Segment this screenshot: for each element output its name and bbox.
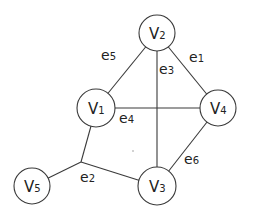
edge-label-e6: e6	[184, 151, 199, 167]
edge-label-e3: e3	[159, 61, 174, 77]
node-v2: V2	[139, 15, 175, 51]
hypergraph-diagram: e5 e1 e3 e4 e6 e2 V2 V1 V4 V3 V5	[0, 0, 255, 218]
node-v3: V3	[138, 167, 176, 205]
node-v1: V1	[77, 89, 115, 127]
node-v4: V4	[200, 90, 236, 126]
node-v5: V5	[14, 168, 50, 204]
edge-label-e1: e1	[189, 49, 204, 65]
edge-label-e4: e4	[119, 110, 134, 126]
edge-label-e2: e2	[80, 169, 95, 185]
artifact-dot	[132, 150, 134, 152]
edge-label-e5: e5	[101, 47, 116, 63]
